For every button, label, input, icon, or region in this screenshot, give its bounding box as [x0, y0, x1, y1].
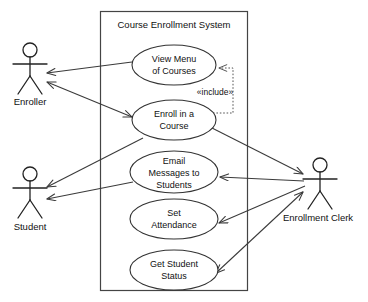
system-boundary-title: Course Enrollment System	[118, 19, 231, 30]
use-case-label-line-1: Email	[163, 156, 186, 166]
use-case-label-line-1: Get Student	[150, 259, 199, 269]
use-case-email-messages-to-students[interactable]: Email Messages to Students	[130, 151, 218, 193]
actor-left-leg-icon	[18, 200, 30, 218]
actor-enroller[interactable]: Enroller	[13, 43, 47, 107]
actor-head-icon	[23, 167, 37, 181]
use-case-enroll-in-a-course[interactable]: Enroll in a Course	[132, 100, 216, 140]
actor-right-leg-icon	[30, 76, 42, 94]
use-case-label-line-1: Set	[167, 208, 181, 218]
use-case-set-attendance[interactable]: Set Attendance	[130, 199, 218, 239]
use-case-ellipse[interactable]	[132, 100, 216, 140]
use-case-ellipse[interactable]	[132, 45, 216, 85]
use-case-get-student-status[interactable]: Get Student Status	[130, 250, 218, 290]
use-case-view-menu-of-courses[interactable]: View Menu of Courses	[132, 45, 216, 85]
actor-head-icon	[313, 158, 327, 172]
actor-label-enroller: Enroller	[14, 96, 47, 107]
use-case-label-line-1: Enroll in a	[154, 109, 194, 119]
use-case-ellipse[interactable]	[130, 250, 218, 290]
actor-label-enrollment-clerk: Enrollment Clerk	[283, 212, 353, 223]
use-case-label-line-2: of Courses	[152, 66, 196, 76]
use-case-label-line-2: Status	[161, 271, 187, 281]
include-stereotype-label: «include»	[197, 87, 234, 97]
use-case-diagram-canvas: Course Enrollment System «include»	[0, 0, 368, 302]
actor-left-leg-icon	[308, 191, 320, 209]
actor-head-icon	[23, 43, 37, 57]
actor-label-student: Student	[14, 221, 47, 232]
use-case-ellipse[interactable]	[130, 199, 218, 239]
actor-student[interactable]: Student	[13, 167, 47, 232]
use-case-label-line-2: Messages to	[148, 168, 199, 178]
use-case-label-line-1: View Menu	[152, 54, 196, 64]
actor-left-leg-icon	[18, 76, 30, 94]
uml-diagram-svg: Course Enrollment System «include»	[0, 0, 368, 302]
use-case-label-line-3: Students	[156, 180, 192, 190]
actor-right-leg-icon	[320, 191, 332, 209]
actor-right-leg-icon	[30, 200, 42, 218]
use-case-label-line-2: Course	[159, 121, 188, 131]
use-case-label-line-2: Attendance	[151, 220, 197, 230]
